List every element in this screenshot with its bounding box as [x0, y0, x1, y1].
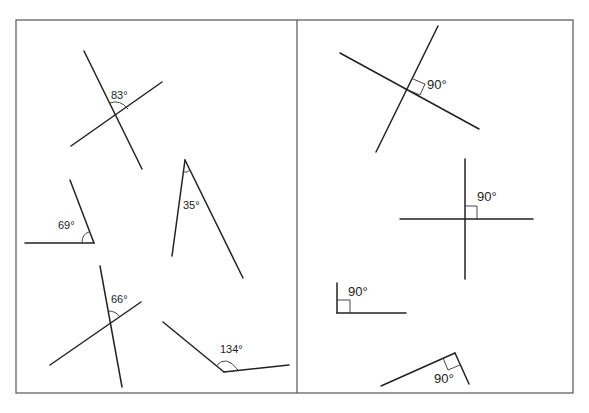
angle-90-b-figure: 90° [400, 159, 533, 279]
angle-label-90-d: 90° [434, 371, 454, 386]
angle-label-35: 35° [183, 199, 200, 211]
angle-90-d-figure: 90° [381, 353, 469, 386]
angle-arc [82, 232, 89, 243]
angle-label-90-b: 90° [477, 189, 497, 204]
angle-label-90-c: 90° [348, 284, 368, 299]
angle-66-figure: 66° [50, 266, 141, 387]
line [455, 353, 469, 384]
angle-label-69: 69° [58, 219, 75, 231]
angle-83-figure: 83° [71, 51, 162, 169]
angle-label-83: 83° [111, 89, 128, 101]
line [163, 322, 224, 372]
angle-label-90-a: 90° [427, 77, 447, 92]
line [100, 266, 122, 387]
angles-diagram: 83° 69° 35° 66° 134° 90° 90° [0, 0, 589, 413]
line [185, 160, 243, 278]
right-angle-marker [465, 206, 477, 219]
diagram-frame [16, 20, 573, 393]
angle-90-c-figure: 90° [337, 283, 406, 313]
angle-label-134: 134° [220, 343, 243, 355]
line [84, 51, 142, 169]
angle-90-a-figure: 90° [340, 26, 479, 152]
angle-label-66: 66° [111, 293, 128, 305]
right-angle-marker [337, 300, 350, 313]
angle-35-figure: 35° [172, 160, 243, 278]
line [50, 302, 141, 365]
angle-69-figure: 69° [25, 180, 94, 243]
line [224, 365, 289, 372]
angle-134-figure: 134° [163, 322, 289, 372]
angle-arc [184, 170, 190, 172]
line [70, 180, 94, 243]
